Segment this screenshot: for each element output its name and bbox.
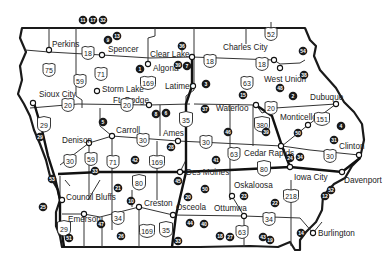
marker-7[interactable]: 7 <box>183 62 192 71</box>
marker-17[interactable]: 17 <box>89 16 98 25</box>
shield-number: 218 <box>285 193 297 200</box>
city-burlington: Burlington <box>310 229 355 238</box>
marker-28[interactable]: 28 <box>167 143 176 152</box>
marker-45[interactable]: 45 <box>174 177 183 186</box>
us-highway-shield-34: 34 <box>263 212 275 225</box>
marker-25[interactable]: 25 <box>39 203 48 212</box>
shield-number: 71 <box>97 71 105 78</box>
city-oskaloosa: Oskaloosa <box>229 181 273 199</box>
marker-24[interactable]: 24 <box>286 154 295 163</box>
marker-14[interactable]: 14 <box>297 229 306 238</box>
marker-15[interactable]: 15 <box>239 91 248 100</box>
marker-number: 45 <box>175 178 181 184</box>
marker-39[interactable]: 39 <box>174 61 183 70</box>
city-storm-lake: Storm Lake <box>94 85 144 94</box>
marker-number: 18 <box>217 233 223 239</box>
marker-11[interactable]: 11 <box>79 16 88 25</box>
city-label: Latimer <box>165 82 193 91</box>
interstate-shield-80: 80 <box>133 175 146 191</box>
marker-18[interactable]: 18 <box>216 232 225 241</box>
marker-13[interactable]: 13 <box>113 32 122 41</box>
city-davenport: Davenport <box>339 169 382 185</box>
marker-number: 22 <box>272 200 278 206</box>
marker-36[interactable]: 36 <box>178 42 187 51</box>
city-dot-icon <box>109 133 114 138</box>
marker-number: 11 <box>80 17 86 23</box>
marker-29[interactable]: 29 <box>36 133 45 142</box>
marker-number: 23 <box>241 193 247 199</box>
marker-33[interactable]: 33 <box>91 167 100 176</box>
us-highway-shield-30: 30 <box>64 154 76 167</box>
marker-number: 1 <box>139 66 142 72</box>
marker-54[interactable]: 54 <box>299 47 308 56</box>
marker-48[interactable]: 48 <box>276 84 285 93</box>
marker-4[interactable]: 4 <box>337 122 346 131</box>
marker-21[interactable]: 21 <box>114 184 123 193</box>
city-dot-icon <box>189 54 194 59</box>
marker-9[interactable]: 9 <box>104 36 113 45</box>
shield-number: 71 <box>109 159 117 166</box>
marker-number: 34 <box>297 154 303 160</box>
city-dot-icon <box>229 193 234 198</box>
marker-5[interactable]: 5 <box>99 118 108 127</box>
marker-40[interactable]: 40 <box>200 220 209 229</box>
marker-41[interactable]: 41 <box>212 156 221 165</box>
city-dot-icon <box>339 169 344 174</box>
marker-23[interactable]: 23 <box>240 192 249 201</box>
marker-number: 6 <box>165 110 168 116</box>
us-highway-shield-20: 20 <box>121 98 133 111</box>
marker-number: 26 <box>118 233 124 239</box>
marker-50[interactable]: 50 <box>201 185 210 194</box>
marker-51[interactable]: 51 <box>65 234 74 243</box>
marker-50[interactable]: 50 <box>294 129 303 138</box>
us-highway-shield-71: 71 <box>107 155 119 168</box>
us-highway-shield-169: 169 <box>140 224 155 237</box>
marker-8[interactable]: 8 <box>152 110 161 119</box>
marker-26[interactable]: 26 <box>117 232 126 241</box>
marker-19[interactable]: 19 <box>266 236 275 245</box>
us-highway-shield-34: 34 <box>112 211 124 224</box>
city-label: Monticello <box>280 113 317 122</box>
marker-46[interactable]: 46 <box>224 128 233 137</box>
shield-number: 18 <box>258 61 266 68</box>
marker-12[interactable]: 12 <box>321 192 330 201</box>
marker-31[interactable]: 31 <box>330 136 339 145</box>
marker-number: 41 <box>213 157 219 163</box>
marker-22[interactable]: 22 <box>271 199 280 208</box>
marker-number: 19 <box>267 237 273 243</box>
marker-53[interactable]: 53 <box>48 175 57 184</box>
us-highway-shield-63: 63 <box>236 225 248 238</box>
marker-39[interactable]: 39 <box>262 128 271 137</box>
marker-6[interactable]: 6 <box>162 109 171 118</box>
shield-number: 151 <box>316 116 328 123</box>
city-dot-icon <box>170 212 175 217</box>
marker-20[interactable]: 20 <box>184 193 193 202</box>
city-latimer: Latimer <box>165 82 196 91</box>
marker-27[interactable]: 27 <box>226 233 235 242</box>
marker-32[interactable]: 32 <box>99 16 108 25</box>
marker-10[interactable]: 10 <box>127 197 136 206</box>
marker-47[interactable]: 47 <box>97 220 106 229</box>
marker-34[interactable]: 34 <box>296 153 305 162</box>
marker-number: 3 <box>205 81 208 87</box>
marker-number: 2 <box>292 93 295 99</box>
marker-3[interactable]: 3 <box>202 80 211 89</box>
city-dot-icon <box>333 101 338 106</box>
marker-33[interactable]: 33 <box>174 237 183 246</box>
marker-1[interactable]: 1 <box>136 65 145 74</box>
us-highway-shield-18: 18 <box>82 46 94 59</box>
marker-number: 15 <box>240 92 246 98</box>
shield-number: 30 <box>66 158 74 165</box>
marker-44[interactable]: 44 <box>186 219 195 228</box>
marker-number: 17 <box>90 17 96 23</box>
interstate-shield-80: 80 <box>258 161 271 177</box>
marker-38[interactable]: 38 <box>300 71 309 80</box>
marker-37[interactable]: 37 <box>201 105 210 114</box>
shield-number: 80 <box>135 180 143 187</box>
marker-number: 33 <box>92 168 98 174</box>
marker-number: 36 <box>179 43 185 49</box>
marker-2[interactable]: 2 <box>289 92 298 101</box>
city-dot-icon <box>287 164 292 169</box>
marker-number: 20 <box>185 194 191 200</box>
marker-42[interactable]: 42 <box>131 156 140 165</box>
